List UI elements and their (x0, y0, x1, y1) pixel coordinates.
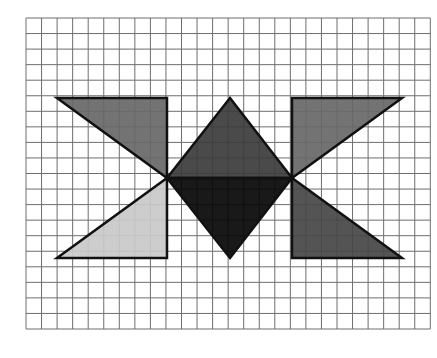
upper-left-triangle (57, 98, 167, 178)
grid-figure (0, 0, 437, 358)
lower-left-triangle (57, 178, 167, 258)
lower-right-triangle (292, 178, 402, 258)
diamond-upper-half (167, 98, 292, 178)
diamond-lower-half (167, 178, 292, 258)
shapes-group (57, 98, 402, 258)
upper-right-triangle (292, 98, 402, 178)
